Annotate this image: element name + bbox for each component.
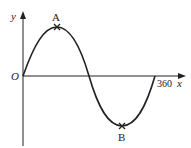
y-axis-label: y xyxy=(10,10,16,22)
x-tick-360: 360 xyxy=(157,78,172,89)
point-b-label: B xyxy=(118,131,125,143)
y-axis-arrow-icon xyxy=(20,11,26,19)
sine-graph: A B y x O 360 xyxy=(0,0,191,148)
x-axis-label: x xyxy=(176,77,182,89)
point-a-label: A xyxy=(52,11,60,23)
origin-label: O xyxy=(11,70,19,82)
